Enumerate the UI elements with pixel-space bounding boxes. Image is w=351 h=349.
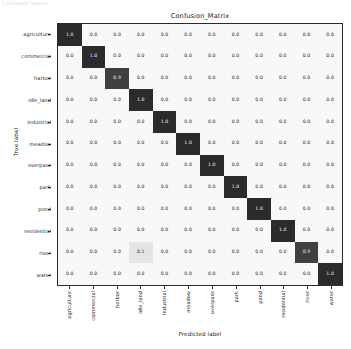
x-tick-label: park: [233, 291, 239, 302]
matrix-cell: 0.0: [247, 176, 271, 198]
matrix-cell-value: 0.0: [255, 120, 263, 125]
matrix-cell: 0.0: [271, 46, 295, 68]
matrix-cell: 0.0: [271, 263, 295, 285]
matrix-cell-value: 0.0: [303, 163, 311, 168]
matrix-cell-value: 0.0: [208, 272, 216, 277]
matrix-cell: 0.0: [153, 68, 177, 90]
matrix-cell: 0.0: [224, 133, 248, 155]
matrix-cell-value: 0.0: [184, 54, 192, 59]
x-tick-label: harbor: [114, 291, 120, 308]
y-tick-industrial: industrial: [0, 111, 51, 133]
matrix-cell-value: 0.0: [279, 185, 287, 190]
matrix-cell-value: 0.9: [303, 250, 311, 255]
matrix-cell-value: 1.0: [161, 120, 169, 125]
matrix-cell-value: 0.0: [161, 185, 169, 190]
matrix-cell: 0.0: [176, 198, 200, 220]
x-tick-label: idle_land: [137, 291, 143, 314]
matrix-cell: 0.0: [82, 111, 106, 133]
matrix-cell: 0.0: [58, 68, 82, 90]
matrix-cell: 0.0: [176, 68, 200, 90]
matrix-cell: 0.0: [200, 220, 224, 242]
y-tick-mark: [48, 100, 51, 101]
x-tick-water: water: [319, 286, 343, 331]
matrix-cell: 0.0: [153, 155, 177, 177]
matrix-cell: 0.0: [129, 198, 153, 220]
matrix-cell-value: 0.0: [255, 98, 263, 103]
matrix-cell-value: 1.0: [232, 185, 240, 190]
matrix-cell: 0.0: [295, 133, 319, 155]
matrix-cell-value: 0.0: [255, 272, 263, 277]
matrix-cell-value: 0.0: [184, 98, 192, 103]
matrix-cell-value: 0.0: [161, 141, 169, 146]
matrix-cell: 0.0: [318, 46, 342, 68]
matrix-cell-value: 0.0: [255, 76, 263, 81]
matrix-cell: 0.0: [153, 198, 177, 220]
matrix-cell: 0.0: [200, 89, 224, 111]
matrix-cell: 0.0: [318, 89, 342, 111]
matrix-cell: 0.0: [295, 220, 319, 242]
y-tick-mark: [48, 78, 51, 79]
matrix-cell-value: 0.0: [255, 163, 263, 168]
matrix-cell: 0.0: [295, 176, 319, 198]
matrix-cell: 0.0: [200, 133, 224, 155]
matrix-cell: 0.0: [105, 133, 129, 155]
x-tick-mark: [260, 286, 261, 289]
matrix-cell: 0.0: [82, 176, 106, 198]
matrix-cell-value: 0.0: [137, 163, 145, 168]
matrix-cell-value: 0.0: [279, 54, 287, 59]
matrix-cell-value: 0.0: [90, 98, 98, 103]
x-tick-mark: [164, 286, 165, 289]
y-tick-label: residential: [24, 228, 51, 234]
matrix-cell-value: 1.0: [326, 272, 334, 277]
matrix-cell: 0.0: [105, 111, 129, 133]
y-tick-river: river: [0, 242, 51, 264]
matrix-cell-value: 0.0: [232, 207, 240, 212]
matrix-cell-value: 0.0: [66, 228, 74, 233]
matrix-cell: 0.0: [82, 68, 106, 90]
matrix-cell-value: 0.0: [208, 141, 216, 146]
x-tick-mark: [307, 286, 308, 289]
matrix-cell-value: 0.0: [279, 33, 287, 38]
matrix-cell: 0.0: [129, 155, 153, 177]
matrix-cell-value: 0.0: [184, 228, 192, 233]
matrix-cell-value: 0.0: [326, 250, 334, 255]
matrix-cell: 0.0: [295, 111, 319, 133]
matrix-cell-value: 1.0: [90, 54, 98, 59]
matrix-cell-value: 0.0: [326, 185, 334, 190]
matrix-cell: 0.0: [295, 263, 319, 285]
matrix-cell-value: 0.0: [232, 33, 240, 38]
x-tick-mark: [117, 286, 118, 289]
x-tick-mark: [283, 286, 284, 289]
matrix-cell: 0.0: [129, 263, 153, 285]
matrix-cell: 0.0: [224, 198, 248, 220]
matrix-cell: 0.0: [224, 68, 248, 90]
x-axis-title: Predicted label: [57, 331, 343, 337]
x-tick-label: agriculture: [66, 291, 72, 319]
matrix-cell-value: 0.0: [113, 98, 121, 103]
matrix-cell-value: 0.0: [113, 163, 121, 168]
matrix-cell-value: 0.0: [137, 33, 145, 38]
matrix-cell-value: 0.0: [232, 120, 240, 125]
matrix-cell: 0.0: [129, 111, 153, 133]
matrix-cell: 0.0: [129, 46, 153, 68]
matrix-cell-value: 0.0: [326, 54, 334, 59]
y-tick-mark: [48, 144, 51, 145]
x-tick-label: pond: [257, 291, 263, 304]
matrix-cell: 0.0: [176, 111, 200, 133]
matrix-cell: 0.0: [82, 242, 106, 264]
y-tick-mark: [48, 275, 51, 276]
matrix-cell-value: 0.0: [232, 272, 240, 277]
matrix-cell-value: 0.0: [208, 250, 216, 255]
matrix-cell-value: 0.0: [303, 272, 311, 277]
matrix-cell: 0.0: [271, 198, 295, 220]
y-tick-mark: [48, 34, 51, 35]
matrix-cell: 0.0: [82, 24, 106, 46]
x-tick-label: meadow: [185, 291, 191, 313]
matrix-cell: 0.0: [318, 176, 342, 198]
plot-area: 1.00.00.00.00.00.00.00.00.00.00.00.00.01…: [57, 23, 343, 286]
matrix-cell-value: 0.0: [232, 98, 240, 103]
x-tick-label: industrial: [161, 291, 167, 315]
matrix-cell-value: 0.0: [303, 141, 311, 146]
matrix-cell: 0.0: [295, 198, 319, 220]
matrix-cell: 0.0: [176, 220, 200, 242]
